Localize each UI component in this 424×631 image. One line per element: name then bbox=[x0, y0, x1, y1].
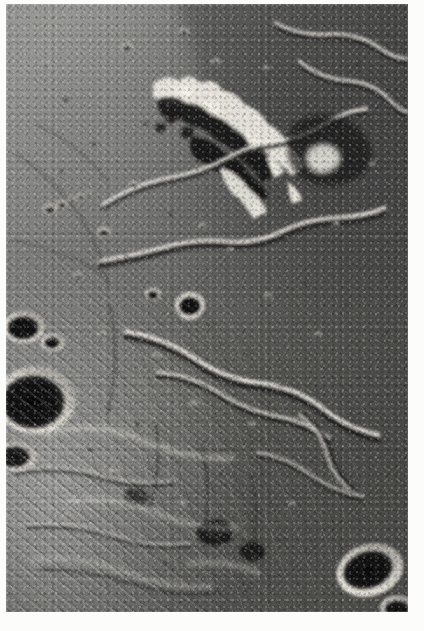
lunar-surface-photograph bbox=[6, 4, 408, 612]
film-grain-layer bbox=[6, 4, 408, 612]
page-canvas bbox=[0, 0, 424, 631]
